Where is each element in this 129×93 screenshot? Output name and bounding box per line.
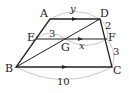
label-a: A: [39, 7, 49, 20]
label-f: F: [108, 31, 116, 44]
label-c: C: [113, 64, 121, 77]
label-g: G: [61, 41, 70, 54]
measure-eg: 3: [49, 28, 55, 39]
measure-bc: 10: [57, 76, 70, 87]
label-d: D: [100, 7, 109, 20]
trapezoid-diagram: A D E F G B C y 3 x 2 3 10: [0, 0, 129, 93]
arc-gf: [65, 39, 107, 46]
diagram-canvas: A D E F G B C y 3 x 2 3 10: [0, 0, 129, 93]
measure-gf: x: [79, 40, 85, 51]
measure-ad: y: [69, 3, 76, 14]
label-e: E: [27, 31, 35, 44]
parallel-arrow-bc: [62, 65, 67, 69]
measure-df: 2: [105, 20, 111, 31]
label-b: B: [5, 62, 13, 75]
measure-fc: 3: [113, 46, 119, 57]
parallel-arrow-ad: [72, 17, 77, 21]
